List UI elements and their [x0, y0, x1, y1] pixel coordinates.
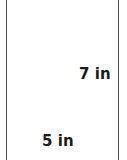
height-dimension-label: 7 in	[79, 67, 111, 82]
geometry-figure: 7 in 5 in	[0, 0, 127, 160]
rectangle-left-side	[6, 0, 7, 160]
width-dimension-label: 5 in	[42, 134, 74, 149]
rectangle-right-side	[118, 0, 119, 160]
